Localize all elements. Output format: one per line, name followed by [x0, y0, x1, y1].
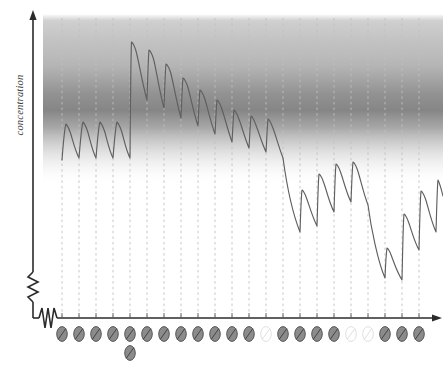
pharmacokinetics-figure: concentration — [0, 0, 443, 375]
dose-marker[interactable] — [312, 327, 323, 342]
dose-marker[interactable] — [159, 327, 170, 342]
dose-marker[interactable] — [74, 327, 85, 342]
dose-marker[interactable] — [380, 327, 391, 342]
dose-marker[interactable] — [278, 327, 289, 342]
dose-marker[interactable] — [295, 327, 306, 342]
dose-marker[interactable] — [176, 327, 187, 342]
dose-marker[interactable] — [329, 327, 340, 342]
x-axis — [33, 308, 442, 328]
dose-marker-missed[interactable] — [261, 327, 272, 342]
therapeutic-band — [43, 14, 443, 186]
dose-marker[interactable] — [210, 327, 221, 342]
y-axis-label: concentration — [14, 75, 25, 136]
dose-marker-missed[interactable] — [363, 327, 374, 342]
dose-marker[interactable] — [91, 327, 102, 342]
dose-marker[interactable] — [193, 327, 204, 342]
x-axis-break-icon — [39, 308, 57, 328]
y-axis — [28, 10, 38, 318]
dose-marker-double[interactable] — [125, 327, 136, 361]
dose-marker[interactable] — [227, 327, 238, 342]
dose-marker[interactable] — [108, 327, 119, 342]
dose-marker-missed[interactable] — [346, 327, 357, 342]
y-axis-break-icon — [28, 272, 38, 302]
dose-marker[interactable] — [397, 327, 408, 342]
dose-marker[interactable] — [414, 327, 425, 342]
dose-marker[interactable] — [244, 327, 255, 342]
dose-marker[interactable] — [142, 327, 153, 342]
concentration-vs-dose-plot: concentration — [0, 0, 443, 375]
dose-marker[interactable] — [57, 327, 68, 342]
dose-markers — [57, 327, 425, 361]
